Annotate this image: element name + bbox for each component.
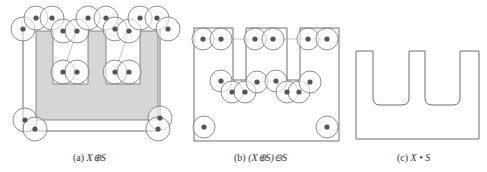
center-dot	[200, 36, 205, 41]
center-dot	[324, 124, 329, 129]
center-dot	[296, 89, 301, 94]
center-dot	[270, 36, 275, 41]
center-dot	[22, 117, 27, 122]
caption-a-prefix: (a)	[73, 152, 87, 163]
center-dot	[33, 15, 38, 20]
center-dot	[60, 28, 65, 33]
center-dot	[112, 69, 117, 74]
caption-c-prefix: (c)	[397, 152, 411, 163]
caption-c-expression: X • S	[411, 152, 431, 163]
panel-a-dilation	[11, 6, 180, 141]
center-dot	[49, 15, 54, 20]
caption-b: (b) (X⊕S)⊖S	[234, 152, 287, 163]
center-dot	[154, 15, 159, 20]
caption-c: (c) X • S	[397, 152, 430, 163]
morphology-figure	[0, 0, 487, 172]
center-dot	[155, 126, 160, 131]
center-dot	[284, 89, 289, 94]
center-dot	[242, 89, 247, 94]
center-dot	[307, 79, 312, 84]
panel-b-closing-construction	[192, 28, 339, 141]
center-dot	[324, 36, 329, 41]
caption-b-prefix: (b)	[234, 152, 248, 163]
center-dot	[60, 69, 65, 74]
center-dot	[32, 126, 37, 131]
caption-a: (a) X⊕S	[73, 152, 106, 163]
center-dot	[165, 26, 170, 31]
center-dot	[103, 15, 108, 20]
result-outline	[356, 51, 479, 139]
center-dot	[157, 115, 162, 120]
panel-c-closing-result	[356, 51, 479, 139]
center-dot	[126, 69, 131, 74]
center-dot	[112, 26, 117, 31]
center-dot	[201, 124, 206, 129]
center-dot	[137, 15, 142, 20]
center-dot	[218, 78, 223, 83]
center-dot	[74, 69, 79, 74]
center-dot	[229, 89, 234, 94]
center-dot	[252, 36, 257, 41]
center-dot	[273, 78, 278, 83]
caption-a-expression: X⊕S	[87, 152, 106, 163]
center-dot	[126, 28, 131, 33]
caption-b-expression: (X⊕S)⊖S	[248, 152, 287, 163]
center-dot	[85, 15, 90, 20]
center-dot	[218, 36, 223, 41]
center-dot	[254, 79, 259, 84]
center-dot	[305, 36, 310, 41]
center-dot	[74, 28, 79, 33]
center-dot	[20, 26, 25, 31]
